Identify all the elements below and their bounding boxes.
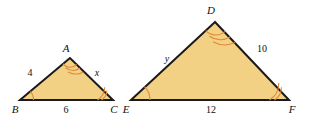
vertex-label-b: B — [12, 103, 19, 115]
side-label-df: 10 — [257, 43, 267, 54]
side-label-ab: 4 — [28, 67, 33, 78]
side-label-de: y — [164, 53, 170, 64]
figure-canvas: A B C 4 x 6 D — [0, 0, 320, 130]
side-label-ef: 12 — [206, 104, 216, 115]
side-label-bc: 6 — [64, 104, 69, 115]
vertex-label-d: D — [206, 4, 215, 16]
triangle-abc-shape — [20, 58, 113, 100]
geometry-figure: A B C 4 x 6 D — [0, 0, 320, 130]
vertex-label-c: C — [110, 103, 118, 115]
vertex-label-a: A — [62, 42, 70, 54]
triangle-def: D E F y 10 12 — [122, 4, 296, 115]
vertex-label-e: E — [122, 103, 130, 115]
side-label-ac: x — [94, 67, 100, 78]
triangle-abc: A B C 4 x 6 — [12, 42, 119, 115]
vertex-label-f: F — [288, 103, 296, 115]
